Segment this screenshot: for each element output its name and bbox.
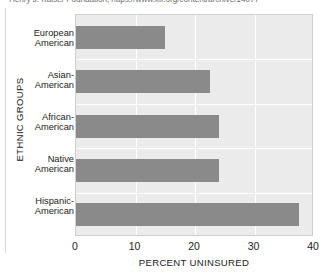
gridline-vertical-30: [255, 15, 256, 235]
x-tick-label-30: 30: [234, 240, 274, 252]
category-label-asian-american: Asian- American: [22, 70, 74, 91]
bar-native-american: [76, 159, 219, 182]
category-label-european-american: European American: [22, 28, 74, 49]
category-label-line-1: African-: [22, 112, 74, 122]
bar-european-american: [76, 26, 165, 49]
category-label-line-1: Asian-: [22, 70, 74, 80]
x-axis-tick-labels: 010203040: [0, 240, 330, 254]
source-caption-text: Henry J. Kaiser Foundation, https://www.…: [9, 0, 259, 4]
x-tick-label-40: 40: [293, 240, 330, 252]
x-tick-label-0: 0: [55, 240, 95, 252]
bar-asian-american: [76, 70, 210, 93]
gridline-horizontal-2: [76, 104, 312, 105]
x-axis-title: PERCENT UNINSURED: [75, 257, 313, 268]
gridline-horizontal-1: [76, 59, 312, 60]
category-label-line-1: Hispanic-: [22, 196, 74, 206]
x-tick-label-10: 10: [115, 240, 155, 252]
category-label-line-1: European: [22, 28, 74, 38]
category-axis-labels: European American Asian- American Africa…: [22, 14, 74, 236]
source-caption-strip: Henry J. Kaiser Foundation, https://www.…: [0, 0, 330, 9]
gridline-horizontal-3: [76, 148, 312, 149]
category-label-line-2: American: [22, 122, 74, 132]
category-label-native-american: Native American: [22, 154, 74, 175]
bar-chart: ETHNIC GROUPS European American Asian- A…: [0, 9, 330, 276]
plot-area: [75, 14, 313, 236]
gridline-horizontal-4: [76, 193, 312, 194]
bar-hispanic-american: [76, 203, 299, 226]
category-label-line-1: Native: [22, 154, 74, 164]
category-label-african-american: African- American: [22, 112, 74, 133]
category-label-line-2: American: [22, 164, 74, 174]
bar-african-american: [76, 115, 219, 138]
category-label-line-2: American: [22, 38, 74, 48]
category-label-line-2: American: [22, 80, 74, 90]
category-label-line-2: American: [22, 206, 74, 216]
x-tick-label-20: 20: [174, 240, 214, 252]
category-label-hispanic-american: Hispanic- American: [22, 196, 74, 217]
